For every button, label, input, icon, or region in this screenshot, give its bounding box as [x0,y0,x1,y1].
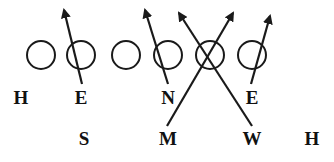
defender-label-h-left: H [14,88,29,107]
defender-label-n: N [161,88,175,107]
defender-label-m: M [159,129,177,148]
defender-label-e-left: E [75,88,88,107]
route-arrow-m-3 [167,13,233,126]
defender-label-w: W [243,129,262,148]
offensive-line [27,41,266,69]
defender-label-s: S [79,129,90,148]
route-arrow-e-5 [251,16,270,84]
defender-label-e-right: E [246,88,259,107]
lineman-circle-3 [112,41,140,69]
defender-label-h-right: H [305,129,320,148]
route-arrow-n-2 [145,10,168,84]
lineman-circle-1 [27,41,55,69]
route-arrow-e-1 [64,10,82,84]
route-arrow-w-4 [179,13,252,126]
lineman-circle-2 [67,41,95,69]
